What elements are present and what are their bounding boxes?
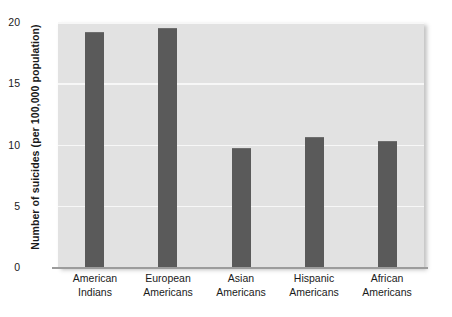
x-category-label-line: Americans bbox=[339, 286, 435, 300]
gridline-20 bbox=[58, 22, 424, 24]
y-tick-label-10: 10 bbox=[0, 139, 20, 151]
x-category-label-line: African bbox=[339, 272, 435, 286]
y-tick-label-15: 15 bbox=[0, 77, 20, 89]
bar-1 bbox=[85, 32, 104, 267]
gridline-15 bbox=[58, 83, 424, 85]
y-tick-label-20: 20 bbox=[0, 16, 20, 28]
bar-2 bbox=[158, 28, 177, 267]
gridline-10 bbox=[58, 145, 424, 147]
x-axis-line bbox=[52, 267, 428, 269]
x-category-label-5: AfricanAmericans bbox=[339, 272, 435, 299]
bar-5 bbox=[378, 141, 397, 267]
y-tick-label-0: 0 bbox=[0, 261, 20, 273]
y-tick-label-5: 5 bbox=[0, 200, 20, 212]
plot-area bbox=[58, 22, 424, 267]
bar-chart-figure: Number of suicides (per 100,000 populati… bbox=[0, 0, 452, 317]
bar-3 bbox=[232, 148, 251, 267]
bar-4 bbox=[305, 137, 324, 267]
y-axis-title: Number of suicides (per 100,000 populati… bbox=[29, 7, 41, 267]
